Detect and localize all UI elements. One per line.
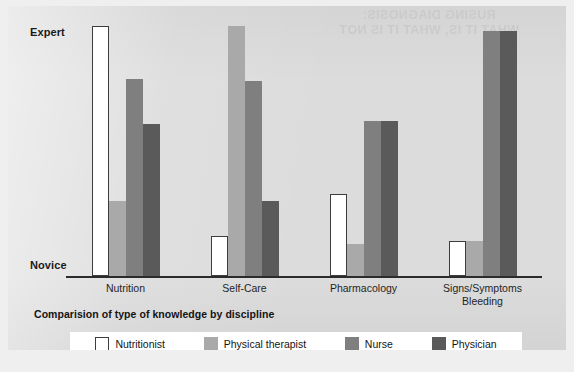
bar-nutritionist[interactable] [92,26,109,276]
bar-physician[interactable] [381,121,398,276]
bar-nutritionist[interactable] [211,236,228,276]
bar-nurse[interactable] [364,121,381,276]
legend-label-physician: Physician [452,338,497,350]
legend-label-nutritionist: Nutritionist [115,338,165,350]
chart-plot-area: Expert Novice NutritionSelf-CarePharmaco… [8,6,566,306]
bar-nurse[interactable] [483,31,500,276]
legend-item-physician[interactable]: Physician [432,337,497,350]
legend-swatch-physician [432,337,446,350]
bar-groups: NutritionSelf-CarePharmacologySigns/Symp… [66,6,542,276]
y-axis-label-novice: Novice [30,259,67,271]
chart-legend: NutritionistPhysical therapistNursePhysi… [70,332,522,350]
bar-nutritionist[interactable] [330,194,347,277]
legend-item-nurse[interactable]: Nurse [345,337,393,350]
legend-label-therapist: Physical therapist [224,338,306,350]
bar-physician[interactable] [500,31,517,276]
bar-group: Self-Care [185,6,304,276]
chart-caption: Comparision of type of knowledge by disc… [34,308,274,320]
bar-group-bars [66,26,185,276]
bar-nutritionist[interactable] [449,241,466,276]
bar-therapist[interactable] [466,241,483,276]
figure-card: RUSING DIAGNOSIS: WHAT IT IS, WHAT IT IS… [8,6,566,350]
bar-physician[interactable] [262,201,279,276]
x-axis-tick-label: Self-Care [222,282,266,295]
x-axis-line [66,276,542,278]
bar-group-bars [304,26,423,276]
x-axis-tick-label: Nutrition [106,282,145,295]
x-axis-tick-label: Signs/Symptoms Bleeding [443,282,522,307]
bar-group: Pharmacology [304,6,423,276]
bar-nurse[interactable] [245,81,262,276]
bar-therapist[interactable] [347,244,364,277]
legend-swatch-nutritionist [95,337,109,350]
bar-physician[interactable] [143,124,160,277]
legend-item-nutritionist[interactable]: Nutritionist [95,337,165,350]
legend-swatch-therapist [204,337,218,350]
bar-group: Nutrition [66,6,185,276]
bar-group-bars [185,26,304,276]
legend-swatch-nurse [345,337,359,350]
bar-group: Signs/Symptoms Bleeding [423,6,542,276]
bar-group-bars [423,26,542,276]
legend-item-therapist[interactable]: Physical therapist [204,337,306,350]
bar-therapist[interactable] [228,26,245,276]
legend-label-nurse: Nurse [365,338,393,350]
y-axis-label-expert: Expert [30,26,65,38]
bar-therapist[interactable] [109,201,126,276]
bar-nurse[interactable] [126,79,143,277]
x-axis-tick-label: Pharmacology [330,282,397,295]
